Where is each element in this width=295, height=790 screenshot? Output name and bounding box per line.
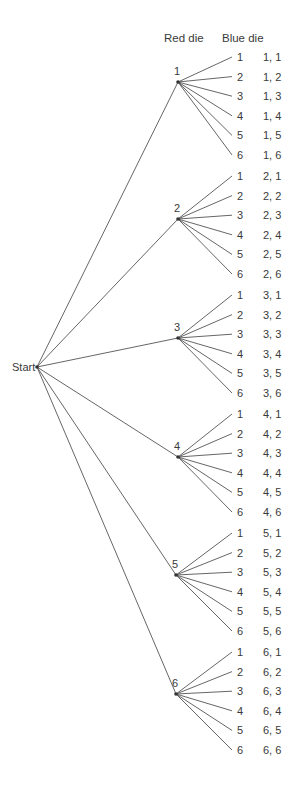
outcome-label: 2, 5 [263, 248, 281, 260]
blue-die-leaf-label: 1 [237, 527, 243, 539]
red-die-node-label: 5 [172, 558, 178, 570]
outcome-label: 6, 1 [263, 646, 281, 658]
red-die-node-dot [176, 455, 180, 459]
red-die-node-label: 2 [174, 202, 180, 214]
red-die-node-dot [176, 217, 180, 221]
blue-die-leaf-label: 1 [237, 408, 243, 420]
blue-die-leaf-label: 3 [237, 447, 243, 459]
red-die-node-label: 3 [174, 321, 180, 333]
edge-red-5-to-blue-1 [176, 533, 232, 575]
edge-start-to-red-1 [37, 82, 178, 367]
edge-red-6-to-blue-1 [176, 652, 232, 694]
red-die-header: Red die [164, 32, 204, 44]
edge-red-4-to-blue-5 [178, 457, 232, 492]
outcome-label: 6, 5 [263, 724, 281, 736]
outcome-label: 3, 3 [263, 328, 281, 340]
outcome-label: 4, 1 [263, 408, 281, 420]
outcome-label: 3, 5 [263, 367, 281, 379]
edge-red-2-to-blue-1 [178, 176, 232, 219]
blue-die-leaf-label: 4 [237, 348, 243, 360]
edge-red-2-to-blue-5 [178, 219, 232, 254]
edge-red-1-to-blue-4 [178, 82, 232, 116]
edge-start-to-red-5 [37, 367, 176, 575]
blue-die-leaf-label: 4 [237, 705, 243, 717]
edge-red-3-to-blue-5 [178, 338, 232, 373]
blue-die-leaf-label: 6 [237, 744, 243, 756]
blue-die-leaf-label: 4 [237, 110, 243, 122]
blue-die-leaf-label: 2 [237, 309, 243, 321]
edge-start-to-red-6 [37, 367, 176, 694]
outcome-label: 5, 2 [263, 547, 281, 559]
blue-die-leaf-label: 3 [237, 566, 243, 578]
outcome-label: 3, 2 [263, 309, 281, 321]
blue-die-leaf-label: 3 [237, 90, 243, 102]
outcome-label: 1, 2 [263, 71, 281, 83]
outcome-label: 5, 6 [263, 625, 281, 637]
red-die-node-dot [174, 573, 178, 577]
blue-die-leaf-label: 5 [237, 724, 243, 736]
outcome-label: 2, 1 [263, 170, 281, 182]
blue-die-leaf-label: 6 [237, 149, 243, 161]
blue-die-leaf-label: 1 [237, 51, 243, 63]
outcome-label: 5, 5 [263, 605, 281, 617]
edge-red-3-to-blue-1 [178, 295, 232, 338]
red-die-node-dot [176, 80, 180, 84]
outcome-label: 6, 3 [263, 685, 281, 697]
outcome-label: 1, 4 [263, 110, 281, 122]
outcome-label: 1, 6 [263, 149, 281, 161]
blue-die-leaf-label: 2 [237, 71, 243, 83]
blue-die-leaf-label: 6 [237, 625, 243, 637]
outcome-label: 5, 1 [263, 527, 281, 539]
edge-red-5-to-blue-5 [176, 575, 232, 611]
edge-red-1-to-blue-5 [178, 82, 232, 135]
blue-die-leaf-label: 5 [237, 486, 243, 498]
blue-die-leaf-label: 5 [237, 129, 243, 141]
outcome-label: 4, 2 [263, 428, 281, 440]
start-node-dot [35, 365, 39, 369]
red-die-node-label: 6 [172, 677, 178, 689]
blue-die-leaf-label: 4 [237, 229, 243, 241]
edge-red-5-to-blue-2 [176, 553, 232, 575]
outcome-label: 1, 1 [263, 51, 281, 63]
edge-red-5-to-blue-3 [176, 572, 232, 575]
outcome-label: 2, 4 [263, 229, 281, 241]
edge-red-1-to-blue-1 [178, 57, 232, 82]
blue-die-leaf-label: 6 [237, 506, 243, 518]
edge-red-6-to-blue-2 [176, 672, 232, 694]
blue-die-leaf-label: 2 [237, 190, 243, 202]
outcome-label: 3, 1 [263, 289, 281, 301]
blue-die-leaf-label: 2 [237, 666, 243, 678]
outcome-label: 3, 4 [263, 348, 281, 360]
outcome-label: 5, 3 [263, 566, 281, 578]
blue-die-header: Blue die [222, 32, 264, 44]
tree-edges [0, 0, 295, 790]
blue-die-leaf-label: 6 [237, 387, 243, 399]
edge-red-1-to-blue-6 [178, 82, 232, 155]
outcome-label: 2, 6 [263, 268, 281, 280]
red-die-node-label: 4 [174, 440, 180, 452]
edge-start-to-red-4 [37, 367, 178, 457]
blue-die-leaf-label: 2 [237, 428, 243, 440]
outcome-label: 2, 2 [263, 190, 281, 202]
outcome-label: 4, 5 [263, 486, 281, 498]
blue-die-leaf-label: 1 [237, 646, 243, 658]
outcome-label: 1, 5 [263, 129, 281, 141]
outcome-label: 3, 6 [263, 387, 281, 399]
edge-red-1-to-blue-2 [178, 77, 232, 82]
blue-die-leaf-label: 5 [237, 367, 243, 379]
edge-red-6-to-blue-5 [176, 694, 232, 730]
edge-start-to-red-3 [37, 338, 178, 367]
blue-die-leaf-label: 2 [237, 547, 243, 559]
red-die-node-label: 1 [174, 65, 180, 77]
outcome-label: 1, 3 [263, 90, 281, 102]
start-label: Start [12, 361, 35, 373]
outcome-label: 4, 6 [263, 506, 281, 518]
outcome-label: 5, 4 [263, 586, 281, 598]
outcome-label: 4, 4 [263, 467, 281, 479]
blue-die-leaf-label: 3 [237, 685, 243, 697]
blue-die-leaf-label: 5 [237, 605, 243, 617]
blue-die-leaf-label: 4 [237, 586, 243, 598]
edge-red-1-to-blue-3 [178, 82, 232, 96]
outcome-label: 2, 3 [263, 209, 281, 221]
blue-die-leaf-label: 4 [237, 467, 243, 479]
